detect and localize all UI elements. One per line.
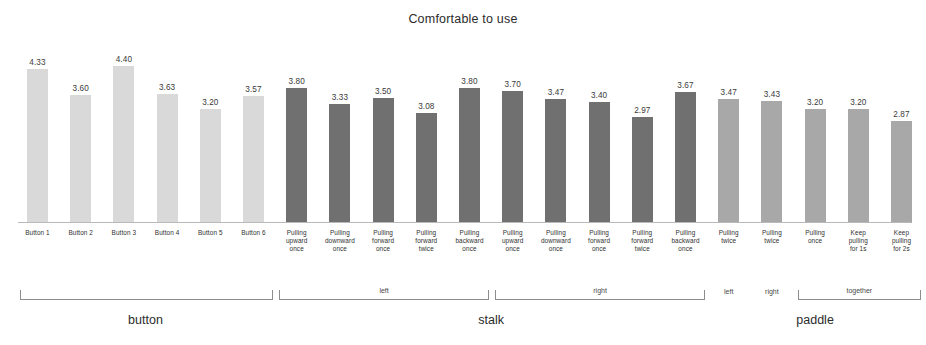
x-tick-label-line: twice	[750, 237, 793, 245]
bar-column: 3.40	[589, 1, 610, 223]
x-tick-label: Button 6	[232, 229, 275, 237]
bar-column: 3.63	[157, 1, 178, 223]
x-tick-label: Pullingforwardtwice	[621, 229, 664, 254]
bar-value-label: 3.60	[73, 84, 89, 93]
x-tick-label-line: twice	[707, 237, 750, 245]
bar-column: 3.47	[718, 1, 739, 223]
x-tick-label-line: forward	[621, 237, 664, 245]
x-tick-label-line: upward	[275, 237, 318, 245]
x-tick-label-line: for 1s	[837, 245, 880, 253]
x-tick-label: Keeppullingfor 1s	[837, 229, 880, 254]
x-tick-label-line: forward	[578, 237, 621, 245]
bar	[157, 94, 178, 223]
x-tick-label-line: Pulling	[491, 229, 534, 237]
bar-column: 3.20	[848, 1, 869, 223]
x-tick-label-line: Button 4	[146, 229, 189, 237]
chart-figure: Comfortable to use 4.333.604.403.633.203…	[0, 0, 926, 345]
group-name: paddle	[718, 313, 912, 327]
x-tick-label: Pullingbackwardonce	[448, 229, 491, 254]
bar-column: 2.97	[632, 1, 653, 223]
x-tick-label-line: Button 3	[102, 229, 145, 237]
bar	[632, 117, 653, 223]
x-tick-label-line: Pulling	[405, 229, 448, 237]
subgroup-label: left	[376, 287, 391, 294]
bar	[805, 109, 826, 223]
subgroup-bracket	[20, 290, 273, 300]
x-tick-label-line: for 2s	[880, 245, 923, 253]
bar-value-label: 3.63	[159, 83, 175, 92]
x-tick-label: Button 5	[189, 229, 232, 237]
x-tick-label: Pullingdownwardonce	[534, 229, 577, 254]
x-tick-label-line: Pulling	[534, 229, 577, 237]
x-tick-label-line: Pulling	[448, 229, 491, 237]
x-tick-label-line: forward	[405, 237, 448, 245]
bar	[718, 99, 739, 223]
x-tick-label-line: twice	[621, 245, 664, 253]
bar-value-label: 3.47	[548, 88, 564, 97]
x-tick-label: Pullingdownwardonce	[318, 229, 361, 254]
x-axis-tick-labels: Button 1Button 2Button 3Button 4Button 5…	[0, 229, 926, 281]
subgroup-label: left	[711, 288, 746, 295]
bar-column: 3.33	[329, 1, 350, 223]
bar	[329, 104, 350, 223]
x-tick-label-line: Keep	[837, 229, 880, 237]
bar-column: 3.80	[459, 1, 480, 223]
x-tick-label-line: once	[664, 245, 707, 253]
bar-value-label: 3.47	[721, 88, 737, 97]
bar-column: 3.57	[243, 1, 264, 223]
x-tick-label-line: once	[794, 237, 837, 245]
bar-value-label: 3.50	[375, 87, 391, 96]
group-name: stalk	[286, 313, 696, 327]
x-tick-label: Pullingtwice	[750, 229, 793, 245]
bar-column: 3.20	[805, 1, 826, 223]
x-tick-label-line: downward	[318, 237, 361, 245]
x-tick-label-line: Button 2	[59, 229, 102, 237]
x-tick-label: Pullingtwice	[707, 229, 750, 245]
x-tick-label-line: pulling	[880, 237, 923, 245]
subgroup-bracket: left	[279, 290, 489, 300]
x-tick-label-line: once	[275, 245, 318, 253]
x-tick-label: Pullingupwardonce	[275, 229, 318, 254]
bar-column: 3.70	[502, 1, 523, 223]
x-tick-label-line: downward	[534, 237, 577, 245]
x-tick-label: Pullingforwardonce	[362, 229, 405, 254]
bar-value-label: 3.67	[677, 81, 693, 90]
x-tick-label-line: Pulling	[664, 229, 707, 237]
bar	[373, 98, 394, 223]
x-axis-baseline	[18, 222, 911, 223]
bar-value-label: 3.80	[289, 77, 305, 86]
bar	[675, 92, 696, 223]
bar-column: 3.80	[286, 1, 307, 223]
x-tick-label-line: Button 1	[16, 229, 59, 237]
x-tick-label-line: Pulling	[578, 229, 621, 237]
group-label-row: buttonstalkpaddle	[0, 313, 926, 337]
plot-area: 4.333.604.403.633.203.573.803.333.503.08…	[0, 0, 926, 223]
bar	[502, 91, 523, 223]
bar-column: 4.33	[27, 1, 48, 223]
x-tick-label-line: Keep	[880, 229, 923, 237]
group-name: button	[27, 313, 264, 327]
bar	[286, 88, 307, 223]
bar	[589, 102, 610, 223]
x-tick-label-line: Pulling	[621, 229, 664, 237]
bar-column: 3.60	[70, 1, 91, 223]
bar-column: 2.87	[891, 1, 912, 223]
bar-value-label: 3.20	[202, 98, 218, 107]
x-tick-label-line: once	[491, 245, 534, 253]
x-tick-label-line: once	[534, 245, 577, 253]
x-tick-label-line: once	[578, 245, 621, 253]
bar-value-label: 3.20	[850, 98, 866, 107]
subgroup-bracket: together	[798, 290, 921, 300]
subgroup-label: right	[754, 288, 789, 295]
subgroup-label: right	[590, 287, 610, 294]
x-tick-label-line: Button 6	[232, 229, 275, 237]
bar-column: 3.20	[200, 1, 221, 223]
bar-column: 3.43	[761, 1, 782, 223]
x-tick-label: Button 1	[16, 229, 59, 237]
bar-value-label: 3.33	[332, 93, 348, 102]
bar-value-label: 2.97	[634, 106, 650, 115]
x-tick-label-line: Pulling	[362, 229, 405, 237]
bar-column: 3.67	[675, 1, 696, 223]
bar-value-label: 3.20	[807, 98, 823, 107]
bar	[27, 69, 48, 223]
